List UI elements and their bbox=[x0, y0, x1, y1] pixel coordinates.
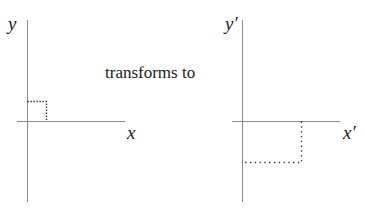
left-coordinate-system: y x bbox=[6, 13, 136, 202]
transformation-diagram: y x transforms to y′ x′ bbox=[0, 0, 366, 215]
left-dotted-square bbox=[28, 102, 47, 122]
transforms-to-caption: transforms to bbox=[105, 63, 195, 82]
right-x-label: x′ bbox=[342, 122, 356, 143]
right-y-label: y′ bbox=[223, 13, 238, 34]
right-coordinate-system: y′ x′ bbox=[223, 13, 356, 202]
left-x-label: x bbox=[126, 122, 136, 143]
right-dotted-rectangle bbox=[243, 122, 302, 163]
left-y-label: y bbox=[6, 13, 17, 34]
